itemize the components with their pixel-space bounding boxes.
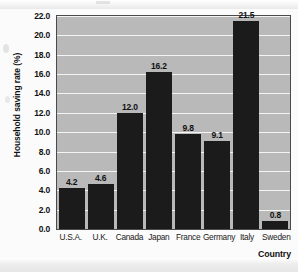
- x-axis-tick: Italy: [232, 232, 261, 242]
- bar: 4.6: [88, 184, 114, 229]
- bar-slot: 0.8: [261, 16, 290, 229]
- bar-value-label: 4.6: [95, 173, 106, 183]
- bar-value-label: 4.2: [66, 177, 77, 187]
- bar: 4.2: [59, 188, 85, 229]
- bar: 12.0: [117, 113, 143, 229]
- x-axis-tick: France: [174, 232, 203, 242]
- bar-value-label: 9.1: [212, 130, 223, 140]
- bar-slot: 16.2: [144, 16, 173, 229]
- y-axis-tick: 8.0: [39, 147, 50, 157]
- x-axis-tick: Sweden: [262, 232, 291, 242]
- bar-slot: 21.5: [232, 16, 261, 229]
- bar-value-label: 12.0: [122, 102, 138, 112]
- bar-series: 4.24.612.016.29.89.121.50.8: [57, 16, 290, 229]
- x-axis-tick: U.S.A.: [56, 232, 85, 242]
- x-axis-tick-labels: U.S.A.U.K.CanadaJapanFranceGermanyItalyS…: [56, 232, 291, 242]
- plot-area: 4.24.612.016.29.89.121.50.8: [56, 15, 291, 230]
- y-axis-tick: 0.0: [39, 224, 50, 234]
- bar-value-label: 21.5: [238, 10, 254, 20]
- scan-artifact-bottom: [0, 258, 298, 272]
- bar-slot: 4.2: [57, 16, 86, 229]
- scan-artifact-top: [0, 0, 298, 9]
- bar-value-label: 16.2: [151, 61, 167, 71]
- x-axis-title: Country: [258, 249, 291, 259]
- x-axis-tick: U.K.: [85, 232, 114, 242]
- y-axis-tick: 10.0: [34, 127, 50, 137]
- y-axis-title: Household saving rate (%): [12, 25, 22, 185]
- bar-slot: 12.0: [115, 16, 144, 229]
- y-axis-tick: 18.0: [34, 50, 50, 60]
- x-axis-tick: Germany: [203, 232, 232, 242]
- bar: 9.1: [204, 141, 230, 229]
- bar: 16.2: [146, 72, 172, 229]
- bar: 0.8: [262, 221, 288, 229]
- bar-slot: 4.6: [86, 16, 115, 229]
- bar-slot: 9.1: [203, 16, 232, 229]
- scan-artifact-speck: [96, 1, 110, 4]
- x-axis-tick: Canada: [115, 232, 144, 242]
- bar: 9.8: [175, 134, 201, 229]
- y-axis-tick: 16.0: [34, 69, 50, 79]
- x-axis-tick: Japan: [144, 232, 173, 242]
- y-axis-tick: 2.0: [39, 205, 50, 215]
- chart-page: 22.020.018.016.014.012.010.08.06.04.02.0…: [0, 0, 298, 272]
- y-axis-tick-labels: 22.020.018.016.014.012.010.08.06.04.02.0…: [0, 15, 54, 230]
- y-axis-tick: 20.0: [34, 30, 50, 40]
- y-axis-tick: 22.0: [34, 11, 50, 21]
- y-axis-tick: 14.0: [34, 88, 50, 98]
- bar-value-label: 9.8: [182, 123, 193, 133]
- bar-slot: 9.8: [174, 16, 203, 229]
- bar-value-label: 0.8: [270, 210, 281, 220]
- bar: 21.5: [233, 21, 259, 229]
- y-axis-tick: 12.0: [34, 108, 50, 118]
- y-axis-tick: 4.0: [39, 185, 50, 195]
- y-axis-tick: 6.0: [39, 166, 50, 176]
